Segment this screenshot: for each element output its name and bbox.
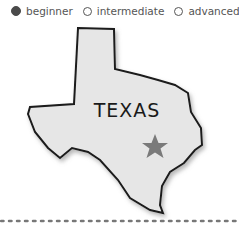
texas-cookie-image: TEXAS bbox=[0, 0, 239, 233]
state-label: TEXAS bbox=[93, 99, 161, 121]
dotted-divider bbox=[0, 219, 239, 223]
